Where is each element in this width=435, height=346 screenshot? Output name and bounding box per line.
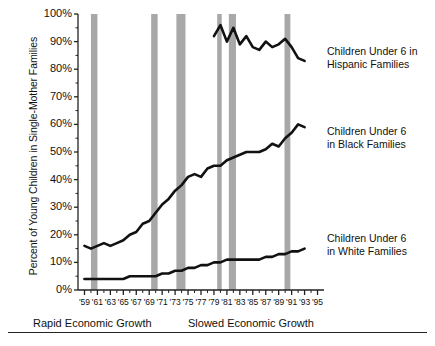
recession-band bbox=[217, 14, 222, 290]
y-tick-label: 60% bbox=[36, 117, 72, 129]
y-tick-label: 0% bbox=[36, 283, 72, 295]
y-tick-label: 10% bbox=[36, 255, 72, 267]
annotation-white-line1: Children Under 6 bbox=[327, 232, 407, 245]
annotation-black-line1: Children Under 6 bbox=[327, 125, 406, 138]
recession-band bbox=[285, 14, 291, 290]
annotation-white-line2: in White Families bbox=[327, 245, 407, 258]
series-line bbox=[214, 25, 305, 61]
label-slowed-growth: Slowed Economic Growth bbox=[188, 317, 314, 329]
y-tick-label: 50% bbox=[36, 145, 72, 157]
y-tick-label: 100% bbox=[36, 7, 72, 19]
annotation-white: Children Under 6 in White Families bbox=[327, 232, 407, 257]
y-tick-label: 90% bbox=[36, 35, 72, 47]
chart-container: Percent of Young Children in Single-Moth… bbox=[0, 0, 435, 346]
label-rapid-growth: Rapid Economic Growth bbox=[33, 317, 152, 329]
annotation-black-line2: in Black Families bbox=[327, 138, 406, 151]
y-tick-label: 70% bbox=[36, 90, 72, 102]
annotation-hispanic-line1: Children Under 6 in bbox=[327, 45, 417, 58]
annotation-hispanic-line2: Hispanic Families bbox=[327, 58, 417, 71]
series-line bbox=[84, 249, 304, 279]
footer-rule bbox=[8, 332, 427, 333]
y-tick-label: 20% bbox=[36, 228, 72, 240]
x-tick-label: '95 bbox=[309, 297, 327, 307]
y-tick-label: 30% bbox=[36, 200, 72, 212]
annotation-hispanic: Children Under 6 in Hispanic Families bbox=[327, 45, 417, 70]
recession-band bbox=[176, 14, 185, 290]
y-tick-label: 40% bbox=[36, 173, 72, 185]
series-line bbox=[84, 124, 304, 248]
annotation-black: Children Under 6 in Black Families bbox=[327, 125, 406, 150]
y-tick-label: 80% bbox=[36, 62, 72, 74]
recession-band bbox=[151, 14, 157, 290]
recession-band bbox=[229, 14, 236, 290]
